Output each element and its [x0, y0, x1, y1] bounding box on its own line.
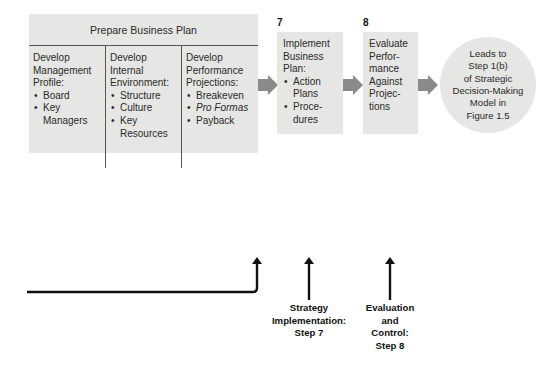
column-title-line: Develop: [110, 52, 181, 65]
evaluate-performance-box: Evaluate Perfor- mance Against Projec- t…: [363, 32, 418, 134]
implement-business-plan-box: Implement Business Plan: ActionPlans Pro…: [277, 32, 343, 134]
leads-to-step-circle: Leads to Step 1(b) of Strategic Decision…: [440, 37, 536, 133]
column-title-line: Profile:: [33, 77, 105, 90]
label-line: Evaluation: [350, 302, 430, 315]
strategy-implementation-label: Strategy Implementation: Step 7: [259, 302, 359, 340]
label-line: and: [350, 315, 430, 328]
plan-header: Prepare Business Plan: [29, 14, 258, 46]
label-line: Strategy: [259, 302, 359, 315]
label-line: Step 7: [259, 327, 359, 340]
internal-environment-column: Develop Internal Environment: Structure …: [105, 46, 181, 168]
bullet-item-pro-formas: Pro Formas: [186, 102, 258, 115]
flow-arrow-icon: [343, 75, 363, 95]
step-text-line: Perfor-: [369, 51, 418, 64]
flow-arrow-icon: [418, 75, 438, 95]
bullet-list: Board KeyManagers: [33, 90, 105, 128]
bullet-item-action-plans: ActionPlans: [283, 76, 343, 101]
performance-projections-column: Develop Performance Projections: Breakev…: [181, 46, 258, 168]
step-8-number: 8: [363, 17, 369, 28]
column-title-line: Environment:: [110, 77, 181, 90]
circle-text-line: Step 1(b): [453, 60, 524, 72]
label-line: Step 8: [350, 340, 430, 353]
column-title-line: Develop: [33, 52, 105, 65]
circle-text-line: Model in: [453, 97, 524, 109]
column-title-line: Performance: [186, 65, 258, 78]
bullet-item-culture: Culture: [110, 102, 181, 115]
bullet-item-breakeven: Breakeven: [186, 90, 258, 103]
step-title-line: Business: [283, 51, 343, 64]
bullet-list: Structure Culture KeyResources: [110, 90, 181, 140]
bullet-item-key-resources: KeyResources: [110, 115, 181, 140]
label-line: Implementation:: [259, 315, 359, 328]
bullet-item-board: Board: [33, 90, 105, 103]
step-text-line: Evaluate: [369, 38, 418, 51]
step-text-line: mance: [369, 63, 418, 76]
circle-text-line: Decision-Making: [453, 85, 524, 97]
management-profile-column: Develop Management Profile: Board KeyMan…: [29, 46, 105, 168]
bullet-item-payback: Payback: [186, 115, 258, 128]
bullet-item-structure: Structure: [110, 90, 181, 103]
column-title-line: Projections:: [186, 77, 258, 90]
column-title-line: Develop: [186, 52, 258, 65]
step-title-line: Plan:: [283, 63, 343, 76]
step-text-line: Projec-: [369, 88, 418, 101]
flow-arrow-icon: [258, 75, 278, 95]
plan-title: Prepare Business Plan: [90, 24, 197, 36]
bullet-item-procedures: Proce-dures: [283, 101, 343, 126]
step-7-number: 7: [277, 17, 283, 28]
circle-text-line: Figure 1.5: [453, 110, 524, 122]
step-text-line: tions: [369, 101, 418, 114]
corner-arrow-line: [27, 262, 257, 292]
arrow-up-icon: [385, 257, 395, 264]
bottom-connector-lines: [0, 250, 555, 310]
label-line: Control:: [350, 327, 430, 340]
bullet-item-key-managers: KeyManagers: [33, 102, 105, 127]
evaluation-control-label: Evaluation and Control: Step 8: [350, 302, 430, 352]
column-title-line: Management: [33, 65, 105, 78]
circle-text-line: of Strategic: [453, 73, 524, 85]
step-title-line: Implement: [283, 38, 343, 51]
prepare-business-plan-box: Prepare Business Plan Develop Management…: [29, 14, 258, 153]
bullet-list: Breakeven Pro Formas Payback: [186, 90, 258, 128]
arrow-up-icon: [304, 257, 314, 264]
column-title-line: Internal: [110, 65, 181, 78]
arrow-up-icon: [252, 257, 262, 264]
step-text-line: Against: [369, 76, 418, 89]
circle-text-line: Leads to: [453, 48, 524, 60]
bullet-list: ActionPlans Proce-dures: [283, 76, 343, 126]
